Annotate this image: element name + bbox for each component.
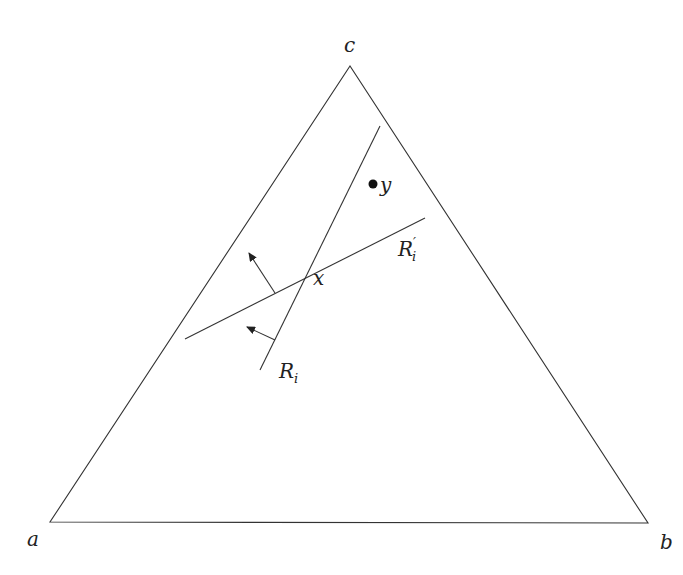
normal-arrow-R-i-prime [249,253,275,293]
line-R-i [260,126,380,370]
diagram-canvas: c a b y x R′i Ri [0,0,683,575]
vertex-label-a: a [27,527,39,551]
point-label-x: x [313,266,324,290]
triangle-abc [50,66,648,523]
line-R-i-prime [185,218,425,339]
line-label-R-i: Ri [278,359,298,386]
vertex-label-b: b [660,530,673,554]
vertex-label-c: c [344,33,355,57]
line-label-R-i-prime: R′i [397,235,416,264]
normal-arrow-R-i [247,327,275,340]
point-y-dot [369,180,378,189]
point-label-y: y [379,173,392,197]
